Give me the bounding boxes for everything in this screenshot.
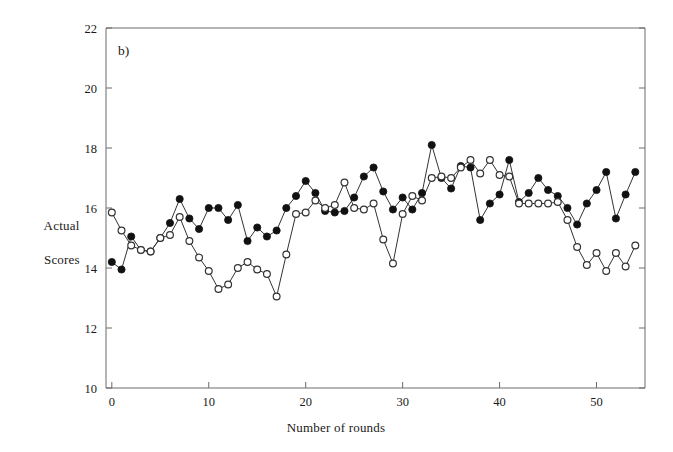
x-tick-label: 0 [109,395,115,409]
data-point-open [225,281,232,288]
data-point-filled [477,216,484,223]
data-point-open [331,202,338,209]
data-point-open [516,200,523,207]
y-tick-label: 20 [85,82,98,96]
data-point-open [273,293,280,300]
data-point-open [525,200,532,207]
x-tick-label: 20 [299,395,312,409]
data-point-open [399,211,406,218]
data-point-filled [215,204,222,211]
data-point-filled [128,233,135,240]
data-point-open [186,238,193,245]
series-marker-group [108,141,639,300]
data-point-filled [428,141,435,148]
data-point-filled [341,207,348,214]
data-point-open [554,199,561,206]
data-point-filled [409,206,416,213]
data-point-filled [283,204,290,211]
x-tick-group: 01020304050 [109,382,603,409]
data-point-open [477,170,484,177]
data-point-open [147,248,154,255]
data-point-open [622,263,629,270]
y-tick-label: 10 [85,382,98,396]
data-point-open [118,227,125,234]
data-point-filled [263,233,270,240]
data-point-open [632,242,639,249]
plot-area: 10121416182022 01020304050 b) [0,0,673,452]
data-point-filled [467,164,474,171]
data-point-filled [292,192,299,199]
data-point-filled [176,195,183,202]
data-point-filled [302,177,309,184]
data-point-open [264,271,271,278]
data-point-open [360,206,367,213]
data-point-open [438,173,445,180]
data-point-open [506,173,513,180]
data-point-open [613,250,620,257]
data-point-open [351,205,358,212]
data-point-open [409,193,416,200]
data-point-open [341,179,348,186]
data-point-filled [118,266,125,273]
data-point-filled [418,189,425,196]
data-point-open [176,214,183,221]
data-point-open [244,259,251,266]
series-line [112,160,635,297]
data-point-open [108,209,115,216]
data-point-filled [612,215,619,222]
data-point-open [322,205,329,212]
data-point-open [370,200,377,207]
data-point-open [496,172,503,179]
data-point-filled [351,194,358,201]
data-point-filled [244,237,251,244]
data-point-filled [622,191,629,198]
data-point-open [419,197,426,204]
data-point-filled [603,168,610,175]
data-point-open [603,268,610,275]
data-point-filled [506,156,513,163]
data-point-open [428,175,435,182]
data-point-open [486,157,493,164]
data-point-open [390,260,397,267]
panel-label: b) [118,43,129,58]
data-point-filled [535,174,542,181]
data-point-open [283,251,290,258]
x-tick-label: 50 [590,395,603,409]
data-point-open [302,209,309,216]
data-point-filled [380,188,387,195]
data-point-filled [525,189,532,196]
data-point-filled [632,168,639,175]
data-point-filled [234,201,241,208]
data-point-open [138,247,145,254]
data-point-filled [312,189,319,196]
data-point-open [535,200,542,207]
data-point-open [157,235,164,242]
data-point-open [293,211,300,218]
y-tick-label: 14 [85,262,98,276]
data-point-filled [254,224,261,231]
data-point-open [457,164,464,171]
data-point-filled [273,227,280,234]
data-point-open [128,242,135,249]
data-point-filled [108,258,115,265]
data-point-open [448,175,455,182]
data-point-open [545,200,552,207]
data-point-filled [331,209,338,216]
y-tick-label: 22 [85,22,98,36]
data-point-filled [389,206,396,213]
data-point-open [380,236,387,243]
data-point-open [593,250,600,257]
y-tick-label: 12 [85,322,98,336]
data-point-open [564,217,571,224]
x-tick-label: 30 [396,395,409,409]
data-point-open [312,197,319,204]
data-point-open [234,265,241,272]
data-point-filled [370,164,377,171]
data-point-open [196,254,203,261]
data-point-open [254,266,261,273]
data-point-filled [195,225,202,232]
data-point-filled [486,200,493,207]
y-tick-label: 18 [85,142,98,156]
data-point-filled [583,200,590,207]
data-point-open [167,232,174,239]
